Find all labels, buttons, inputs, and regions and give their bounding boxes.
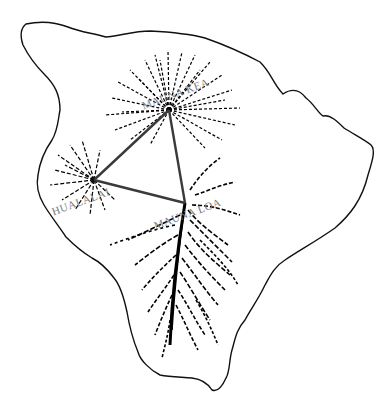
edge-kea-hualalai [94,110,169,180]
edge-kea-loa [169,110,185,203]
